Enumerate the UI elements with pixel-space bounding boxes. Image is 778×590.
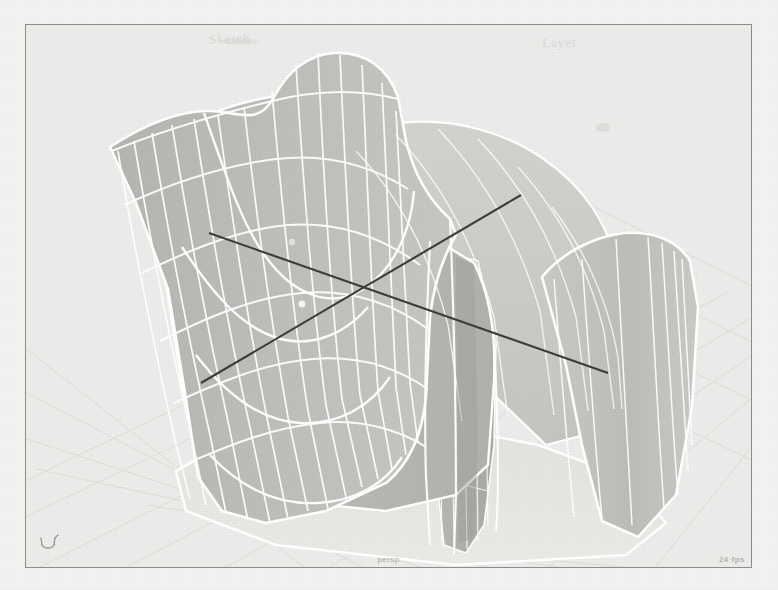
scene-render xyxy=(26,25,751,567)
cv-marker-1[interactable] xyxy=(289,239,295,245)
surface-fold-shadow xyxy=(456,257,478,543)
application-root: Sketch Layer persp 24 fps xyxy=(0,0,778,590)
viewport-name-label: persp xyxy=(377,555,399,564)
viewport-canvas[interactable] xyxy=(26,25,751,567)
perspective-viewport[interactable]: Sketch Layer persp 24 fps xyxy=(25,24,752,568)
watermark-top-left: Sketch xyxy=(209,30,251,47)
frame-rate-readout: 24 fps xyxy=(719,555,745,564)
cv-marker-2[interactable] xyxy=(299,301,306,308)
watermark-top-right: Layer xyxy=(542,34,578,51)
view-axis-gizmo[interactable] xyxy=(34,527,64,557)
axis-gizmo-icon xyxy=(41,535,58,548)
